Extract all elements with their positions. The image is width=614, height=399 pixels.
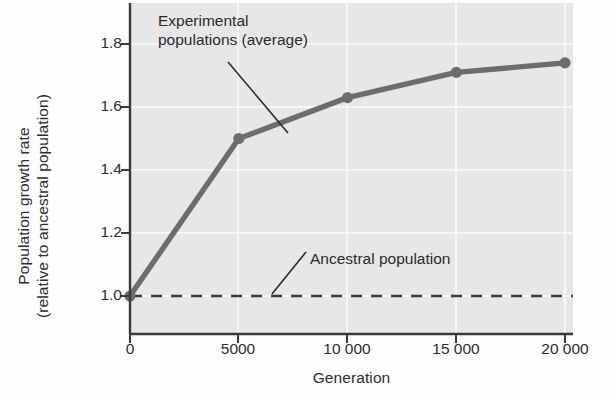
x-axis-title: Generation bbox=[130, 369, 573, 388]
ancestral-annotation-line-1: Ancestral population bbox=[310, 250, 450, 269]
x-axis-tick-labels: 0 5000 10 000 15 000 20 000 bbox=[0, 0, 614, 399]
experimental-annotation-line-2: populations (average) bbox=[158, 31, 308, 50]
x-tick-label-15000: 15 000 bbox=[432, 340, 479, 358]
experimental-populations-annotation: Experimental populations (average) bbox=[158, 12, 308, 50]
x-tick-label-20000: 20 000 bbox=[541, 340, 588, 358]
x-tick-label-0: 0 bbox=[126, 340, 135, 358]
ancestral-population-annotation: Ancestral population bbox=[310, 250, 450, 269]
experimental-annotation-line-1: Experimental bbox=[158, 12, 308, 31]
x-tick-label-5000: 5000 bbox=[221, 340, 255, 358]
x-tick-label-10000: 10 000 bbox=[323, 340, 370, 358]
chart-figure: Population growth rate (relative to ance… bbox=[0, 0, 614, 399]
